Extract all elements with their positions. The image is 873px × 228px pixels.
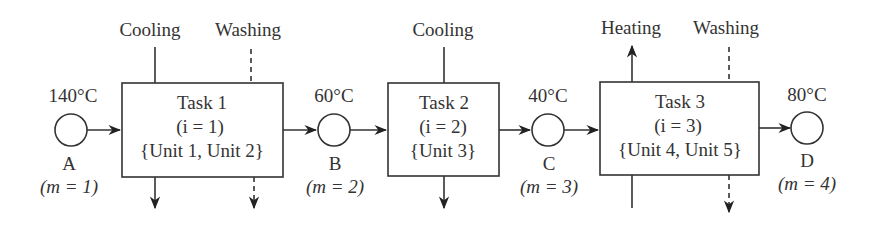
state-d-label: D [800,150,814,171]
task-3-index: (i = 3) [654,115,702,137]
task-3: Task 3 (i = 3) {Unit 4, Unit 5} Heating … [600,17,760,212]
state-b-index: (m = 2) [306,176,364,198]
state-a: 140°C A (m = 1) [40,85,98,198]
state-a-label: A [62,153,76,174]
task-3-title: Task 3 [655,91,705,112]
state-a-node [55,114,87,146]
state-d-node [791,112,823,144]
state-c-node [532,114,564,146]
state-b-label: B [329,153,342,174]
task-1-cooling-label: Cooling [119,19,181,40]
state-d-temperature: 80°C [787,84,826,105]
state-a-index: (m = 1) [40,176,98,198]
state-b-temperature: 60°C [314,85,353,106]
task-2-units: {Unit 3} [410,140,476,161]
task-2: Task 2 (i = 2) {Unit 3} Cooling [388,19,499,208]
state-d: 80°C D (m = 4) [778,84,836,195]
state-d-index: (m = 4) [778,173,836,195]
task-3-washing-label: Washing [693,17,760,38]
state-a-temperature: 140°C [49,85,98,106]
process-flow-diagram: 140°C A (m = 1) Task 1 (i = 1) {Unit 1, … [0,0,873,228]
state-c-index: (m = 3) [520,176,578,198]
task-1-index: (i = 1) [176,116,224,138]
state-c: 40°C C (m = 3) [520,85,578,198]
task-2-title: Task 2 [419,92,469,113]
task-3-units: {Unit 4, Unit 5} [618,139,742,160]
task-2-index: (i = 2) [419,116,467,138]
state-c-temperature: 40°C [528,85,567,106]
task-3-heating-label: Heating [601,17,662,38]
task-1-title: Task 1 [177,92,227,113]
task-2-cooling-label: Cooling [412,19,474,40]
task-1: Task 1 (i = 1) {Unit 1, Unit 2} Cooling … [119,19,283,208]
state-c-label: C [543,153,556,174]
task-1-units: {Unit 1, Unit 2} [140,140,264,161]
state-b-node [318,114,350,146]
task-1-washing-label: Washing [215,19,282,40]
state-b: 60°C B (m = 2) [306,85,364,198]
